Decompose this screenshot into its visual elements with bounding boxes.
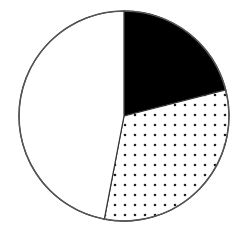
- pie-chart: [0, 0, 246, 249]
- pie-slice-blank: [19, 11, 124, 219]
- pie-slices: [19, 11, 229, 221]
